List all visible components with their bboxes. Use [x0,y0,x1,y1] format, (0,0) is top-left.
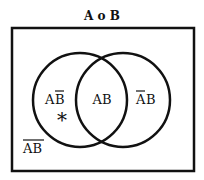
label-a-complement: A [135,92,146,107]
circle-b [76,53,170,147]
venn-diagram: A o B A B AB A B * AB [0,0,204,180]
label-ab-complement: AB [22,141,42,156]
region-label-a-not-b: A B [44,91,65,107]
region-label-not-a-b: A B [135,91,156,107]
asterisk-marker: * [57,108,67,132]
label-b: B [146,92,156,107]
label-b-complement: B [55,92,65,107]
region-label-a-and-b: AB [92,92,112,107]
region-label-not-a-not-b: AB [22,140,44,156]
diagram-title: A o B [83,9,120,23]
label-a: A [44,92,55,107]
